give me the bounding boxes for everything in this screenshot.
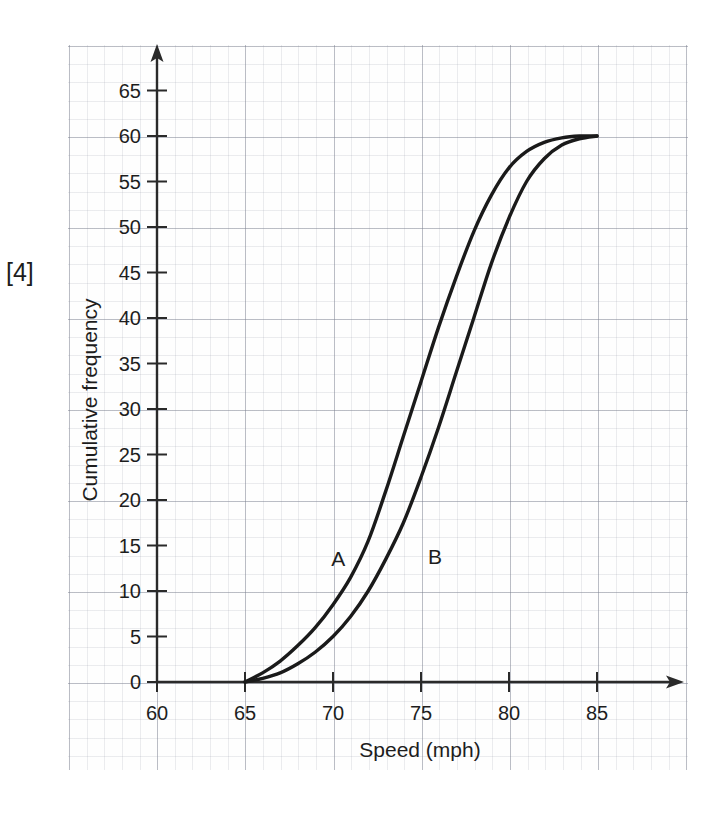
- x-tick-label-70: 70: [322, 702, 344, 724]
- curve-b: [245, 136, 597, 682]
- y-tick-label-55: 55: [119, 171, 141, 193]
- y-tick-label-20: 20: [119, 489, 141, 511]
- y-tick-label-45: 45: [119, 262, 141, 284]
- y-tick-label-30: 30: [119, 398, 141, 420]
- y-tick-label-10: 10: [119, 580, 141, 602]
- y-tick-label-40: 40: [119, 307, 141, 329]
- curve-b-label: B: [428, 545, 442, 568]
- x-tick-label-65: 65: [234, 702, 256, 724]
- x-tick-label-75: 75: [410, 702, 432, 724]
- y-tick-label-60: 60: [119, 125, 141, 147]
- x-tick-label-85: 85: [586, 702, 608, 724]
- x-tick-label-80: 80: [498, 702, 520, 724]
- y-tick-label-50: 50: [119, 216, 141, 238]
- x-axis-title: Speed (mph): [359, 738, 480, 761]
- y-tick-label-5: 5: [130, 626, 141, 648]
- curve-a-label: A: [331, 547, 345, 570]
- y-tick-label-15: 15: [119, 535, 141, 557]
- curve-a: [245, 136, 597, 682]
- y-axis-title: Cumulative frequency: [78, 298, 101, 502]
- y-tick-label-65: 65: [119, 80, 141, 102]
- cumulative-frequency-chart: 0 5 10 15 20 25 30 35 40 45 50 55 60 65 …: [0, 0, 722, 817]
- y-tick-label-35: 35: [119, 353, 141, 375]
- y-tick-label-25: 25: [119, 444, 141, 466]
- question-figure: [4] 0 5 10 15 20: [0, 0, 722, 817]
- y-tick-label-0: 0: [130, 671, 141, 693]
- x-tick-label-60: 60: [146, 702, 168, 724]
